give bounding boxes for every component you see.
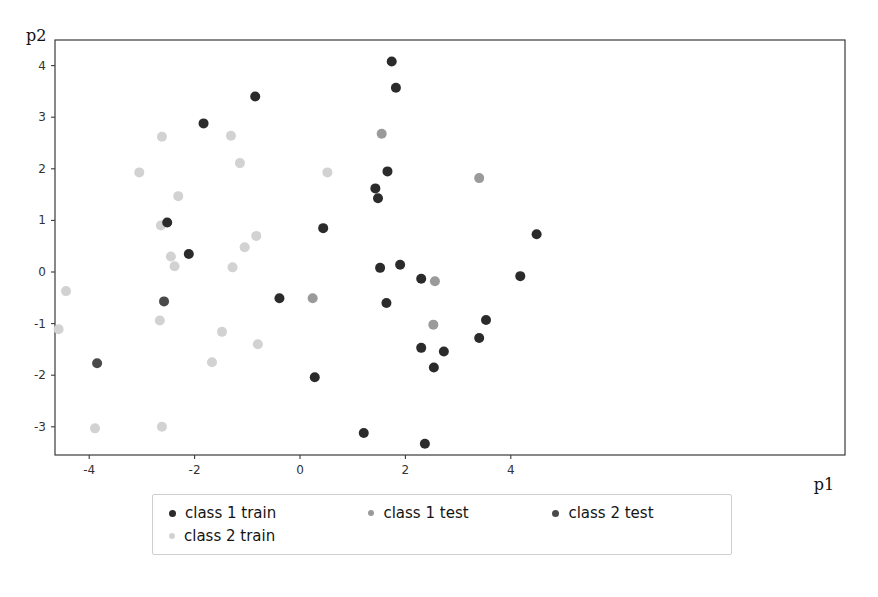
legend: class 1 trainclass 1 testclass 2 testcla… [152,494,732,555]
legend-marker-icon [169,533,175,539]
plot-frame [55,40,845,455]
data-point [387,56,397,66]
data-point [318,223,328,233]
data-point [157,132,167,142]
legend-marker-icon [169,510,176,517]
data-point [391,83,401,93]
data-point [375,263,385,273]
x-axis-label: p1 [814,475,834,494]
y-tick-label: 4 [38,59,46,73]
legend-row: class 2 train [169,527,717,545]
data-point [359,428,369,438]
legend-label: class 1 test [383,504,468,522]
x-tick-label: -2 [189,463,201,477]
data-point [159,296,169,306]
data-point [226,131,236,141]
data-point [370,183,380,193]
y-tick-label: 1 [38,213,46,227]
data-point [474,333,484,343]
data-point [310,372,320,382]
data-point [532,229,542,239]
data-point [381,298,391,308]
legend-label: class 2 test [568,504,653,522]
data-point [162,217,172,227]
data-point [207,357,217,367]
data-point [184,249,194,259]
data-point [61,286,71,296]
legend-label: class 1 train [185,504,276,522]
data-point [416,343,426,353]
data-point [416,274,426,284]
data-point [90,423,100,433]
y-tick-label: 0 [38,265,46,279]
data-point [250,92,260,102]
data-point [173,191,183,201]
data-point [157,422,167,432]
data-point [228,262,238,272]
data-point [235,158,245,168]
figure-container: 43210-1-2-3-4-2024p2p1 class 1 trainclas… [0,0,878,597]
x-tick-label: 4 [507,463,515,477]
data-point [395,260,405,270]
y-tick-label: -2 [34,368,46,382]
data-point [474,173,484,183]
legend-label: class 2 train [184,527,275,545]
data-point [251,231,261,241]
data-point [481,315,491,325]
data-point [308,293,318,303]
data-point [515,271,525,281]
data-point [430,276,440,286]
data-point [420,439,430,449]
data-point [382,166,392,176]
x-tick-label: 0 [296,463,304,477]
y-axis-label: p2 [26,26,46,45]
legend-entry[interactable]: class 1 test [368,504,552,522]
y-tick-label: -3 [34,420,46,434]
data-point [429,362,439,372]
data-point [92,358,102,368]
data-point [240,242,250,252]
legend-entry[interactable]: class 2 test [552,504,717,522]
data-point [373,193,383,203]
x-tick-label: 2 [402,463,410,477]
data-point [199,118,209,128]
data-point [166,252,176,262]
y-tick-label: 3 [38,110,46,124]
data-point [439,346,449,356]
data-point [134,167,144,177]
data-point [253,339,263,349]
data-point [170,261,180,271]
legend-entry[interactable]: class 2 train [169,527,375,545]
x-tick-label: -4 [83,463,95,477]
legend-entry[interactable]: class 1 train [169,504,368,522]
legend-marker-icon [368,510,374,516]
data-point [377,129,387,139]
y-tick-label: 2 [38,162,46,176]
data-point [155,316,165,326]
legend-row: class 1 trainclass 1 testclass 2 test [169,504,717,522]
data-point [54,324,64,334]
data-point [217,327,227,337]
y-tick-label: -1 [34,317,46,331]
data-point [428,320,438,330]
data-point [322,167,332,177]
legend-marker-icon [552,510,559,517]
data-point [274,293,284,303]
